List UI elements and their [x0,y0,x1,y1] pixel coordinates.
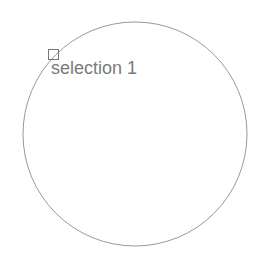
circle-shape[interactable] [23,22,247,246]
drawing-canvas[interactable] [0,0,255,258]
selection-label: selection 1 [51,58,137,78]
